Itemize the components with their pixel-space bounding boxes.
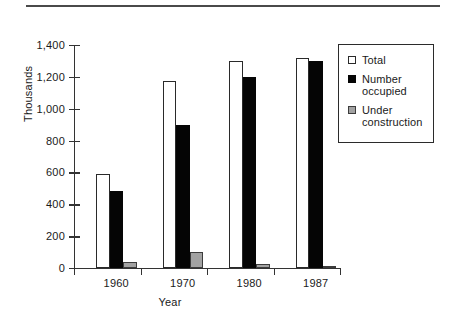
y-axis-title: Thousands	[22, 66, 34, 122]
x-tick-label: 1987	[284, 277, 349, 289]
bar-group	[207, 45, 274, 268]
y-tick-label: 0	[59, 263, 65, 274]
x-tick-label: 1980	[217, 277, 282, 289]
x-tick-mark	[274, 268, 275, 275]
x-tick-mark	[141, 268, 142, 275]
bar-under	[323, 266, 337, 268]
bar-under	[256, 264, 270, 268]
plot-area: 02004006008001,0001,2001,400 19601970198…	[74, 45, 340, 268]
x-tick-mark	[207, 268, 208, 275]
x-axis-title: Year	[0, 296, 340, 308]
y-tick-label: 1,400	[36, 40, 65, 51]
legend-label: Underconstruction	[362, 104, 423, 129]
y-tick-label: 800	[46, 135, 65, 146]
bar-under	[190, 252, 204, 268]
x-tick-label: 1960	[84, 277, 149, 289]
bar-group	[74, 45, 141, 268]
header-rule	[26, 5, 440, 7]
bar-occupied	[176, 125, 190, 268]
y-tick-label: 1,200	[36, 71, 65, 82]
x-tick-label: 1970	[151, 277, 216, 289]
bar-occupied	[243, 77, 257, 268]
chart-figure: Thousands Year 02004006008001,0001,2001,…	[0, 0, 459, 335]
bar-total	[96, 174, 110, 268]
legend-swatch-icon	[348, 56, 356, 64]
bar-occupied	[309, 61, 323, 268]
legend-item[interactable]: Underconstruction	[348, 104, 433, 129]
y-tick-label: 600	[46, 167, 65, 178]
bar-under	[123, 262, 137, 268]
legend-item[interactable]: Numberoccupied	[348, 73, 433, 98]
legend-label: Numberoccupied	[362, 73, 407, 98]
y-tick-label: 200	[46, 231, 65, 242]
bar-total	[296, 58, 310, 268]
legend-swatch-icon	[348, 106, 356, 114]
bar-occupied	[110, 191, 124, 268]
legend-label: Total	[362, 54, 386, 67]
legend-swatch-icon	[348, 75, 356, 83]
y-tick-label: 400	[46, 199, 65, 210]
bar-total	[229, 61, 243, 268]
bar-group	[141, 45, 208, 268]
bar-total	[163, 81, 177, 268]
x-tick-mark	[74, 268, 75, 275]
legend-item[interactable]: Total	[348, 54, 433, 67]
y-tick-label: 1,000	[36, 103, 65, 114]
bar-group	[274, 45, 341, 268]
chart-legend: TotalNumberoccupiedUnderconstruction	[338, 44, 434, 143]
x-tick-mark	[340, 268, 341, 275]
